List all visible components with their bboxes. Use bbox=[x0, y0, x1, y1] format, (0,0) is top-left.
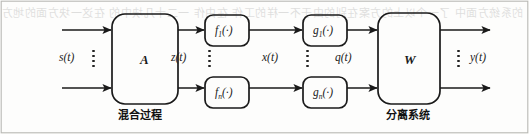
figure-canvas: 的系统方面中 了一个以上的方案在别的由于不一样的工作 在由作 一二十几块中的 在… bbox=[0, 0, 529, 134]
block-label-gn: gn(·) bbox=[313, 87, 333, 101]
ellipsis-f-column bbox=[208, 50, 211, 67]
caption-mixing-process: 混合过程 bbox=[118, 110, 162, 121]
ellipsis-output bbox=[457, 50, 460, 67]
caption-separation-system: 分离系统 bbox=[386, 110, 430, 121]
signal-label-z: z(t) bbox=[171, 52, 186, 64]
ellipsis-input bbox=[92, 50, 95, 67]
gn-paren: (·) bbox=[323, 86, 334, 98]
fn-paren: (·) bbox=[222, 86, 233, 98]
block-label-f1: f1(·) bbox=[215, 25, 233, 39]
block-label-g1: g1(·) bbox=[313, 25, 333, 39]
block-label-W: W bbox=[404, 53, 416, 66]
signal-label-q: q(t) bbox=[335, 52, 352, 64]
block-label-fn: fn(·) bbox=[215, 87, 233, 101]
figure-frame bbox=[1, 1, 528, 133]
f1-paren: (·) bbox=[222, 24, 233, 36]
ellipsis-g-column bbox=[306, 50, 309, 67]
g1-paren: (·) bbox=[323, 24, 334, 36]
signal-label-x: x(t) bbox=[262, 52, 278, 64]
block-diagram-svg bbox=[0, 0, 529, 134]
block-label-A: A bbox=[140, 53, 149, 66]
signal-label-s: s(t) bbox=[59, 52, 74, 64]
signal-label-y: y(t) bbox=[470, 52, 486, 64]
